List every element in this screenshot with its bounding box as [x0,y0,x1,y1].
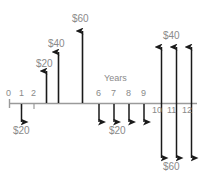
tick-label-0: 0 [6,89,11,98]
tick-label-7: 7 [111,89,116,98]
amount-label-year-3: $20 [36,59,53,69]
amount-label-years-6-to-9: $20 [109,126,126,136]
tick-label-8: 8 [126,89,131,98]
cash-flow-timeline-diagram: 0 1 2 6 7 8 9 10 11 12 Years $20 $20 $40… [0,0,206,181]
tick-label-1: 1 [19,89,24,98]
amount-label-years-10-to-12-up: $40 [163,31,180,41]
amount-label-year-4: $40 [48,39,65,49]
years-axis-label: Years [104,74,127,83]
amount-label-years-10-to-12-down: $60 [163,162,180,172]
tick-label-9: 9 [141,89,146,98]
tick-label-10: 10 [152,106,162,115]
tick-label-11: 11 [167,106,176,115]
amount-label-year-1: $20 [13,126,30,136]
tick-label-12: 12 [182,106,192,115]
amount-label-year-5: $60 [72,14,89,24]
tick-label-6: 6 [96,89,101,98]
tick-label-2: 2 [31,89,36,98]
